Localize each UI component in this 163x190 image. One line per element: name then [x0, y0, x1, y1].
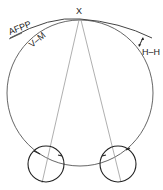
right-small-circle [100, 146, 136, 182]
hh-arrowhead-bottom [139, 44, 142, 47]
left-ray [42, 20, 79, 183]
diagram-canvas: X AFPP V–M H–H [0, 0, 163, 190]
hh-arrowhead-top [141, 37, 144, 40]
hh-label: H–H [142, 47, 160, 57]
apex-label: X [76, 6, 82, 16]
vm-label: V–M [27, 30, 48, 50]
